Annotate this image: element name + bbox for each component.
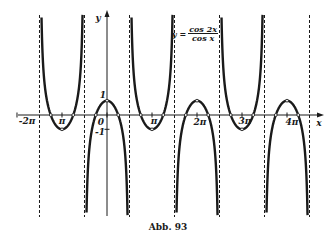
zero-point [162,114,165,117]
function-formula: y = cos 2x cos x [172,25,218,43]
zero-point [49,114,52,117]
y-tick-label-minus-1: -1 [95,128,105,137]
zero-point [94,114,97,117]
zero-point [184,114,187,117]
x-tick-label-minus-2pi: -2π [19,117,36,126]
zero-point [229,114,232,117]
extremum-point [196,99,199,102]
x-tick-label-minus-pi: π [59,117,66,126]
x-tick-label-pi: π [151,117,158,126]
x-tick-label-3pi: 3π [239,117,252,126]
extremum-point [106,99,109,102]
x-axis-label: x [316,119,321,128]
extremum-point [241,128,244,131]
y-axis-label: y [95,14,100,23]
zero-point [72,114,75,117]
extremum-point [151,128,154,131]
y-axis-arrow-icon [105,10,110,17]
figure-caption: Abb. 93 [0,222,336,232]
zero-point [252,114,255,117]
formula-fraction: cos 2x cos x [188,25,218,43]
formula-lhs: y = [172,29,186,39]
x-tick-label-4pi: 4π [286,118,299,127]
y-tick-label-1: 1 [100,91,106,100]
curve-branch [132,15,173,129]
formula-denominator: cos x [192,34,214,42]
extremum-point [61,128,64,131]
curve-branch [222,15,263,129]
x-tick-label-0: 0 [98,118,104,127]
zero-point [139,114,142,117]
curve-branch [42,15,83,129]
zero-point [274,114,277,117]
extremum-point [286,99,289,102]
x-tick-label-2pi: 2π [194,118,207,127]
zero-point [207,114,210,117]
zero-point [117,114,120,117]
asymptote-lines [39,15,309,217]
